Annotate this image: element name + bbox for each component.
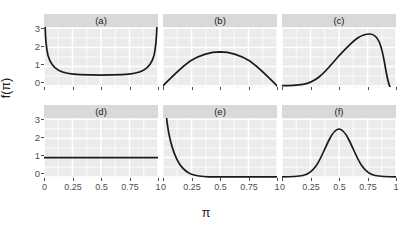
panel-a: (a) (44, 14, 158, 87)
panel-e-gridlines (163, 118, 277, 178)
x-tick-mark-d-100 (158, 178, 159, 181)
panel-a-plot-area (44, 27, 158, 87)
panel-b-plot-area (163, 27, 277, 87)
x-tick-mark-f-75 (368, 178, 369, 181)
panel-c-label: (c) (333, 16, 344, 26)
x-tick-mark-c-75 (368, 87, 369, 90)
panel-d-plot-area (44, 118, 158, 178)
x-tick-mark-f-25 (311, 178, 312, 181)
panel-a-svg (44, 27, 158, 87)
y-tick-label-row1-1: 1 (0, 60, 40, 69)
panel-b-svg (163, 27, 277, 87)
x-tick-mark-d-50 (101, 178, 102, 181)
x-tick-mark-d-0 (44, 178, 45, 181)
panel-d-gridlines (44, 118, 158, 178)
x-tick-mark-b-100 (277, 87, 278, 90)
y-tick-label-row1-2: 2 (0, 42, 40, 51)
panel-c: (c) (282, 14, 396, 87)
x-tick-mark-b-25 (192, 87, 193, 90)
panel-c-plot-area (282, 27, 396, 87)
x-tick-mark-a-100 (158, 87, 159, 90)
panel-e-svg (163, 118, 277, 178)
panel-f: (f) (282, 105, 396, 178)
x-tick-mark-c-50 (339, 87, 340, 90)
panel-d-label: (d) (95, 107, 107, 117)
x-tick-mark-a-75 (130, 87, 131, 90)
x-tick-mark-c-100 (396, 87, 397, 90)
panel-f-plot-area (282, 118, 396, 178)
x-tick-mark-e-75 (249, 178, 250, 181)
clipped-tick-label-row (0, 0, 398, 8)
y-tick-label-row2-2: 2 (0, 133, 40, 142)
y-tick-label-row2-0: 0 (0, 169, 40, 178)
panel-d-svg (44, 118, 158, 178)
x-tick-mark-a-50 (101, 87, 102, 90)
y-tick-label-row1-0: 0 (0, 78, 40, 87)
panel-f-svg (282, 118, 396, 178)
panel-d: (d) (44, 105, 158, 178)
x-tick-mark-e-25 (192, 178, 193, 181)
x-tick-mark-a-0 (44, 87, 45, 90)
x-tick-mark-a-25 (73, 87, 74, 90)
panel-f-gridlines (282, 118, 396, 178)
x-tick-mark-c-25 (311, 87, 312, 90)
panel-a-strip: (a) (44, 14, 158, 27)
x-axis-title: π (176, 206, 236, 220)
y-tick-label-row1-3: 3 (0, 24, 40, 33)
x-tick-mark-d-25 (73, 178, 74, 181)
panel-e: (e) (163, 105, 277, 178)
panel-b-gridlines (163, 27, 277, 87)
panel-c-svg (282, 27, 396, 87)
panel-f-strip: (f) (282, 105, 396, 118)
panel-e-curve (166, 118, 277, 177)
x-tick-mark-e-0 (163, 178, 164, 181)
x-tick-label-f-100: 1 (376, 182, 403, 192)
y-tick-label-row2-3: 3 (0, 115, 40, 124)
x-tick-mark-b-50 (220, 87, 221, 90)
panel-c-strip: (c) (282, 14, 396, 27)
panel-e-strip: (e) (163, 105, 277, 118)
y-tick-label-row2-1: 1 (0, 151, 40, 160)
x-tick-mark-e-50 (220, 178, 221, 181)
panel-c-curve (282, 34, 390, 87)
x-tick-mark-b-0 (163, 87, 164, 90)
panel-a-label: (a) (95, 16, 107, 26)
x-tick-mark-c-0 (282, 87, 283, 90)
x-tick-mark-d-75 (130, 178, 131, 181)
x-tick-mark-b-75 (249, 87, 250, 90)
x-tick-mark-e-100 (277, 178, 278, 181)
panel-e-label: (e) (214, 107, 226, 117)
panel-b-strip: (b) (163, 14, 277, 27)
panel-a-gridlines (44, 27, 158, 87)
panel-e-plot-area (163, 118, 277, 178)
panel-d-strip: (d) (44, 105, 158, 118)
panel-f-label: (f) (335, 107, 344, 117)
x-tick-mark-f-50 (339, 178, 340, 181)
panel-b-label: (b) (214, 16, 226, 26)
x-tick-mark-f-0 (282, 178, 283, 181)
panel-b: (b) (163, 14, 277, 87)
x-tick-mark-f-100 (396, 178, 397, 181)
